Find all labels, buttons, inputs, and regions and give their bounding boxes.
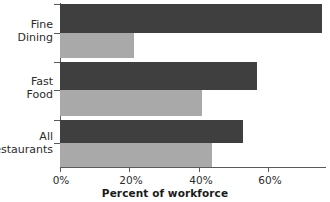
x-tick-60 <box>268 167 269 172</box>
x-tick-40 <box>199 167 200 172</box>
x-tick-label-60: 60% <box>258 174 281 186</box>
bar-row-all-restaurants-light <box>0 143 330 167</box>
x-tick-label-0: 0% <box>53 174 70 186</box>
bar-row-fast-food-light <box>0 90 330 116</box>
x-tick-0 <box>60 167 61 172</box>
bar-fast-food-light <box>60 90 202 116</box>
bar-fast-food-dark <box>60 62 257 90</box>
x-tick-label-20: 20% <box>119 174 142 186</box>
bar-row-all-restaurants-dark <box>0 120 330 143</box>
x-axis-title: Percent of workforce <box>0 187 330 199</box>
bar-fine-dining-dark <box>60 4 322 33</box>
bar-fine-dining-light <box>60 33 134 58</box>
bar-row-fast-food-dark <box>0 62 330 90</box>
bar-all-restaurants-dark <box>60 120 243 143</box>
x-tick-20 <box>129 167 130 172</box>
bar-row-fine-dining-light <box>0 33 330 58</box>
x-tick-label-40: 40% <box>189 174 212 186</box>
bar-chart: Fine Dining Fast Food All Restaurants <box>0 0 330 202</box>
x-axis-line <box>60 167 326 168</box>
bar-all-restaurants-light <box>60 143 212 167</box>
bar-row-fine-dining-dark <box>0 4 330 33</box>
